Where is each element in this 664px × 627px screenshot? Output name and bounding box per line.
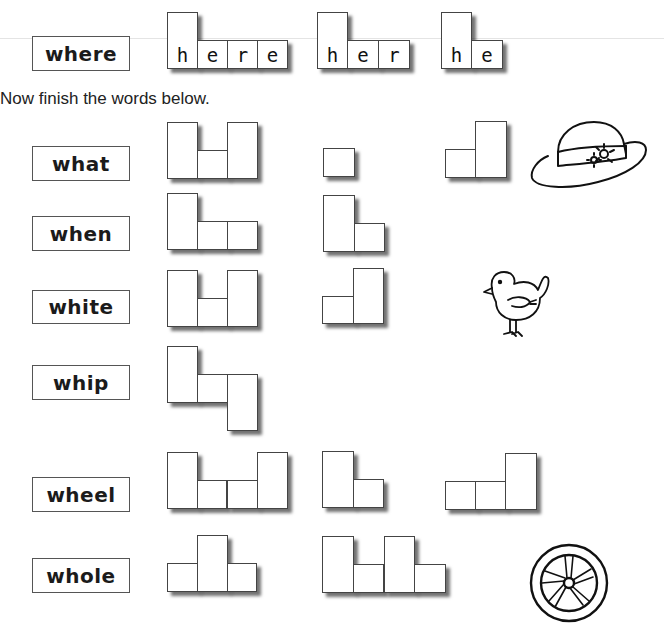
example-word-label: where bbox=[32, 36, 130, 71]
tall-letter-box[interactable] bbox=[167, 452, 198, 509]
short-letter-box[interactable] bbox=[197, 150, 228, 179]
short-letter-box[interactable]: e bbox=[257, 40, 288, 69]
short-letter-box[interactable] bbox=[353, 479, 384, 508]
word-label: whip bbox=[32, 365, 130, 400]
word-label: white bbox=[32, 290, 130, 324]
short-letter-box[interactable] bbox=[414, 564, 446, 593]
short-letter-box[interactable] bbox=[475, 481, 506, 510]
short-letter-box[interactable] bbox=[353, 564, 384, 593]
tall-letter-box[interactable] bbox=[227, 374, 258, 431]
tall-letter-box[interactable] bbox=[167, 122, 198, 179]
short-letter-box[interactable]: r bbox=[378, 40, 410, 69]
tall-letter-box[interactable] bbox=[227, 270, 258, 327]
short-letter-box[interactable] bbox=[323, 148, 355, 177]
short-letter-box[interactable] bbox=[197, 480, 227, 509]
short-letter-box[interactable] bbox=[197, 298, 228, 327]
word-label: wheel bbox=[32, 477, 130, 512]
tall-letter-box[interactable] bbox=[505, 453, 537, 510]
word-label: whole bbox=[32, 558, 130, 593]
tall-letter-box[interactable] bbox=[323, 195, 355, 252]
tall-letter-box[interactable] bbox=[353, 268, 384, 324]
tall-letter-box[interactable]: h bbox=[317, 12, 348, 69]
short-letter-box[interactable]: r bbox=[227, 40, 258, 69]
short-letter-box[interactable] bbox=[227, 563, 257, 592]
short-letter-box[interactable] bbox=[197, 221, 228, 250]
short-letter-box[interactable] bbox=[354, 223, 385, 252]
tall-letter-box[interactable] bbox=[322, 536, 354, 593]
short-letter-box[interactable] bbox=[197, 374, 228, 403]
word-label: what bbox=[32, 146, 130, 181]
word-label: when bbox=[32, 216, 130, 251]
short-letter-box[interactable]: e bbox=[197, 40, 228, 69]
tall-letter-box[interactable] bbox=[384, 536, 415, 593]
tall-letter-box[interactable]: h bbox=[167, 12, 198, 69]
tall-letter-box[interactable] bbox=[197, 535, 228, 592]
tall-letter-box[interactable] bbox=[322, 451, 354, 508]
short-letter-box[interactable] bbox=[227, 221, 258, 250]
tall-letter-box[interactable] bbox=[227, 122, 258, 179]
tall-letter-box[interactable] bbox=[167, 270, 198, 327]
tall-letter-box[interactable] bbox=[475, 121, 507, 178]
tall-letter-box[interactable] bbox=[167, 346, 198, 403]
short-letter-box[interactable] bbox=[167, 563, 198, 592]
short-letter-box[interactable] bbox=[322, 296, 354, 324]
tall-letter-box[interactable] bbox=[257, 452, 288, 509]
short-letter-box[interactable] bbox=[445, 481, 476, 510]
hat-icon bbox=[528, 118, 650, 192]
instruction-text: Now finish the words below. bbox=[0, 89, 210, 109]
short-letter-box[interactable] bbox=[445, 149, 476, 178]
short-letter-box[interactable] bbox=[227, 480, 258, 509]
chick-icon bbox=[478, 266, 552, 342]
wheel-icon bbox=[527, 541, 611, 625]
tall-letter-box[interactable]: h bbox=[441, 12, 472, 69]
tall-letter-box[interactable] bbox=[167, 193, 198, 250]
short-letter-box[interactable]: e bbox=[347, 40, 379, 69]
short-letter-box[interactable]: e bbox=[471, 40, 503, 69]
